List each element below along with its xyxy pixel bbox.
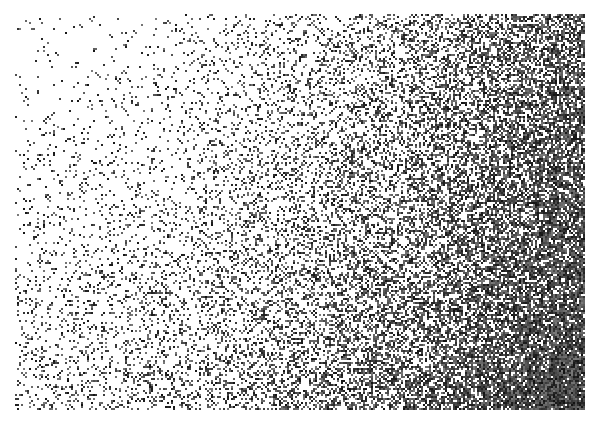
stipple-texture [15,14,585,410]
noise-gradient-image [0,0,594,428]
